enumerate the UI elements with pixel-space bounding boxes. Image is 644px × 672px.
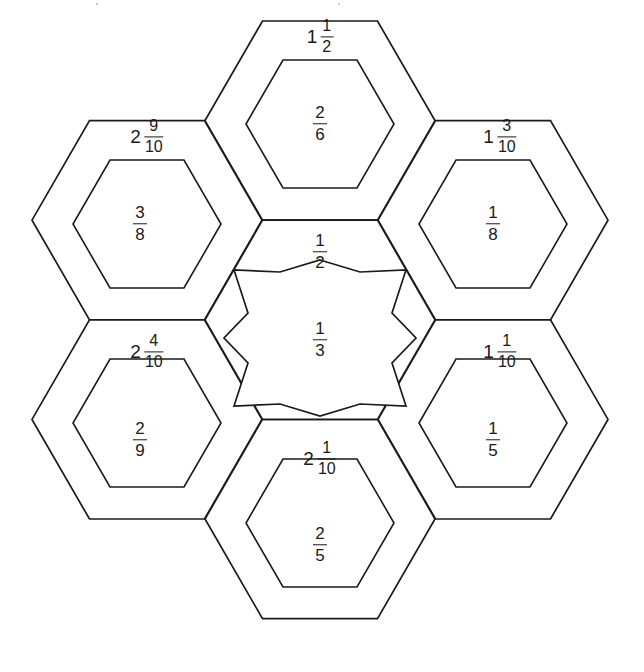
puzzle-diagram bbox=[0, 0, 644, 672]
hexagon-puzzle-stage: 1 1 2 2 6 2 9 10 3 8 1 3 bbox=[0, 0, 644, 672]
center-star bbox=[224, 260, 416, 416]
